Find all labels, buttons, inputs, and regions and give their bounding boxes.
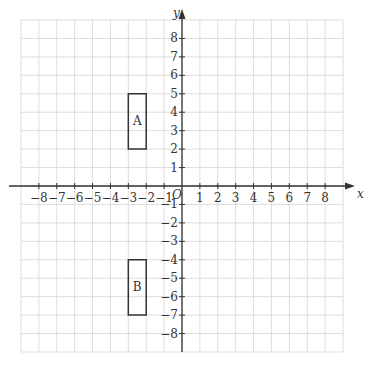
shape-label-a: A bbox=[132, 114, 142, 128]
y-tick-label: 2 bbox=[170, 142, 178, 156]
x-axis-label: x bbox=[357, 187, 364, 201]
x-tick-label: 3 bbox=[232, 191, 240, 205]
x-tick-label: 1 bbox=[196, 191, 204, 205]
y-tick-label: 8 bbox=[170, 31, 178, 45]
x-tick-label: 6 bbox=[286, 191, 294, 205]
x-tick-label: −4 bbox=[102, 191, 120, 205]
x-tick-label: −3 bbox=[119, 191, 137, 205]
x-tick-label: 2 bbox=[214, 191, 222, 205]
y-tick-label: 7 bbox=[170, 50, 178, 64]
y-tick-label: 5 bbox=[170, 87, 178, 101]
y-tick-label: −5 bbox=[160, 271, 178, 285]
x-tick-label: 8 bbox=[321, 191, 329, 205]
y-axis-label: y bbox=[172, 6, 180, 20]
y-tick-label: 4 bbox=[170, 105, 178, 119]
x-tick-label: 5 bbox=[268, 191, 276, 205]
coordinate-grid: xyO −8−7−6−5−4−3−2−11234567887654321−1−2… bbox=[0, 0, 366, 370]
y-tick-label: −1 bbox=[160, 197, 178, 211]
y-tick-label: −6 bbox=[160, 290, 178, 304]
y-tick-label: −7 bbox=[160, 308, 178, 322]
x-tick-label: −7 bbox=[48, 191, 66, 205]
y-tick-label: −4 bbox=[160, 253, 178, 267]
x-axis-arrow-icon bbox=[345, 183, 355, 190]
x-tick-label: 7 bbox=[303, 191, 311, 205]
y-tick-label: 6 bbox=[170, 68, 178, 82]
x-tick-label: 4 bbox=[250, 191, 258, 205]
x-tick-label: −5 bbox=[84, 191, 102, 205]
y-tick-label: −8 bbox=[160, 327, 178, 341]
x-tick-label: −8 bbox=[30, 191, 48, 205]
y-tick-label: −2 bbox=[160, 216, 178, 230]
shape-label-b: B bbox=[133, 280, 142, 294]
x-tick-label: −6 bbox=[66, 191, 84, 205]
y-tick-label: 3 bbox=[170, 124, 178, 138]
x-tick-label: −2 bbox=[137, 191, 155, 205]
y-tick-label: 1 bbox=[170, 161, 178, 175]
y-tick-label: −3 bbox=[160, 234, 178, 248]
axes: xyO bbox=[9, 6, 364, 352]
